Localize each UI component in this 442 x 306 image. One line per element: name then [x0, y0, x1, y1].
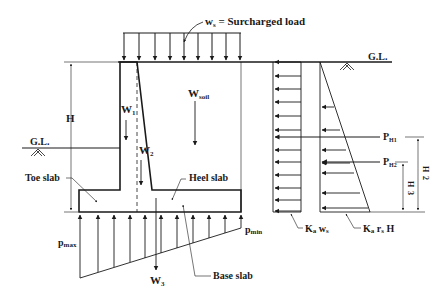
h-third-label: H 3: [406, 181, 415, 195]
gl-left-label: G.L.: [30, 136, 50, 147]
svg-text:3: 3: [406, 191, 415, 195]
w2-label: W2: [139, 144, 154, 158]
svg-text:H: H: [421, 166, 430, 173]
toe-slab-label: Toe slab: [25, 172, 60, 183]
heel-slab-label: Heel slab: [189, 172, 229, 183]
gl-right-label: G.L.: [368, 51, 388, 62]
right-dimensions: [370, 137, 425, 212]
surcharge-load: [123, 22, 241, 60]
ground-symbol-left: [31, 149, 45, 156]
base-slab-leader: [183, 205, 211, 276]
ka-ws-leader: [291, 214, 303, 228]
w3-label: W3: [150, 274, 165, 288]
ph1-label: PH1: [383, 131, 397, 143]
w1-label: W1: [121, 103, 136, 117]
p-max-label: pmax: [58, 237, 77, 249]
h-half-label: H 2: [421, 166, 430, 180]
surcharge-label: ws = Surcharged load: [205, 15, 305, 29]
svg-text:H: H: [406, 181, 415, 188]
ka-ws-label: Ka ws: [305, 223, 329, 235]
ph2-label: PH2: [383, 156, 397, 168]
wall-outline: [79, 62, 241, 212]
base-slab-label: Base slab: [213, 270, 253, 281]
height-label: H: [66, 112, 75, 124]
wsoil-label: Wsoil: [188, 87, 209, 101]
svg-text:2: 2: [421, 176, 430, 180]
ground-symbol-right: [340, 63, 354, 70]
base-pressure-diagram: [80, 215, 241, 278]
ka-rsh-leader: [346, 214, 361, 228]
p-min-label: pmin: [245, 224, 262, 236]
ka-rs-h-label: Ka rs H: [363, 223, 394, 235]
retaining-wall-diagram: ws = Surcharged load G.L. G.L. H W1 W2 W…: [0, 0, 442, 306]
